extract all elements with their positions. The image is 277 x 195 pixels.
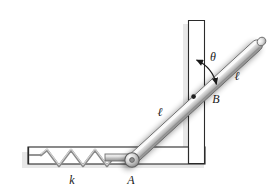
wall-shadow-group — [22, 24, 204, 168]
pin-b-label: B — [212, 92, 220, 106]
pin-joint-b — [191, 94, 196, 99]
pin-a-label: A — [126, 173, 135, 187]
mechanics-figure: θ ℓ ℓ B A k — [0, 0, 277, 195]
pin-joint-a — [125, 153, 139, 167]
angle-label: θ — [210, 50, 216, 64]
length-label-lower: ℓ — [158, 105, 163, 119]
figure-canvas: θ ℓ ℓ B A k — [0, 0, 277, 195]
length-label-upper: ℓ — [235, 69, 240, 83]
spring-stiffness-label: k — [69, 173, 75, 187]
